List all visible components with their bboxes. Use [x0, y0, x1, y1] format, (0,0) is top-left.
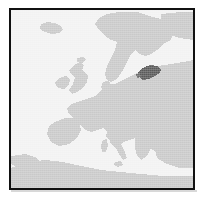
europe-locator-map-figure: [0, 0, 205, 201]
map-drop-shadow: [11, 190, 197, 192]
map-frame: [9, 8, 195, 190]
map-canvas: [11, 10, 193, 188]
